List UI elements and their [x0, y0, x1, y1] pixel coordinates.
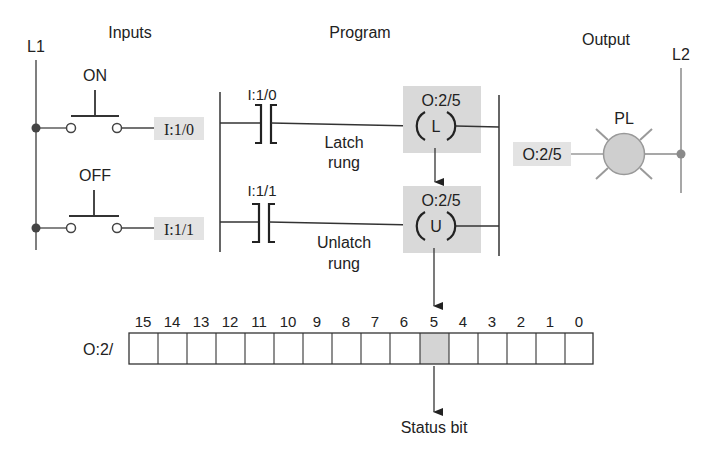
pilot-lamp-icon	[596, 129, 652, 179]
status-word-label: O:2/	[83, 341, 114, 358]
coil-letter: L	[432, 118, 441, 135]
status-bit-label: Status bit	[401, 419, 468, 436]
output-title: Output	[582, 31, 631, 48]
bit-number: 1	[546, 313, 554, 330]
bit-number: 2	[517, 313, 525, 330]
switch-terminal	[113, 224, 122, 233]
bit-number: 4	[459, 313, 467, 330]
bit-number: 3	[488, 313, 496, 330]
status-word-cells	[129, 333, 593, 364]
latch-rung: I:1/0 Latch rung O:2/5 L	[220, 86, 499, 171]
coil-letter: U	[430, 218, 442, 235]
l2-junction-dot	[677, 150, 686, 159]
input-address-on: I:1/0	[164, 121, 194, 138]
bit-number: 0	[575, 313, 583, 330]
bit-number: 9	[313, 313, 321, 330]
rung-label: Latch	[324, 134, 363, 151]
switch-terminal	[67, 124, 76, 133]
no-contact-icon	[271, 105, 277, 143]
rung-label: rung	[328, 154, 360, 171]
bit-number: 10	[280, 313, 297, 330]
on-switch-label: ON	[83, 67, 107, 84]
bit-number: 8	[342, 313, 350, 330]
bit-number: 14	[164, 313, 181, 330]
bit-number: 12	[222, 313, 239, 330]
contact-address: I:1/1	[247, 182, 276, 199]
l2-label: L2	[672, 46, 690, 63]
no-contact-icon	[252, 204, 259, 242]
no-contact-icon	[269, 204, 275, 242]
on-pushbutton: ON	[36, 67, 155, 133]
switch-terminal	[67, 224, 76, 233]
inputs-title: Inputs	[108, 24, 152, 41]
status-word-bit-numbers: 15 14 13 12 11 10 9 8 7 6 5 4 3 2 1 0	[135, 313, 584, 330]
bit-number: 5	[430, 313, 438, 330]
lamp-label: PL	[614, 110, 634, 127]
switch-terminal	[113, 124, 122, 133]
latch-unlatch-diagram: Inputs Program Output L1 ON I:1/0 OFF I:…	[0, 0, 712, 457]
l1-label: L1	[27, 38, 45, 55]
rung-label: rung	[328, 255, 360, 272]
bit-number: 7	[371, 313, 379, 330]
rung-label: Unlatch	[317, 234, 371, 251]
output-address: O:2/5	[522, 146, 561, 163]
bit-number: 6	[400, 313, 408, 330]
coil-address: O:2/5	[421, 92, 460, 109]
off-pushbutton: OFF	[36, 167, 155, 233]
bit-number: 11	[251, 313, 267, 330]
status-bit-cell-highlighted	[420, 333, 449, 364]
coil-address: O:2/5	[421, 192, 460, 209]
program-title: Program	[329, 24, 390, 41]
contact-address: I:1/0	[247, 86, 276, 103]
no-contact-icon	[255, 105, 261, 143]
input-address-off: I:1/1	[164, 221, 194, 238]
bit-number: 13	[193, 313, 210, 330]
unlatch-rung: I:1/1 Unlatch rung O:2/5 U	[220, 182, 499, 272]
bit-number: 15	[135, 313, 152, 330]
off-switch-label: OFF	[79, 167, 111, 184]
